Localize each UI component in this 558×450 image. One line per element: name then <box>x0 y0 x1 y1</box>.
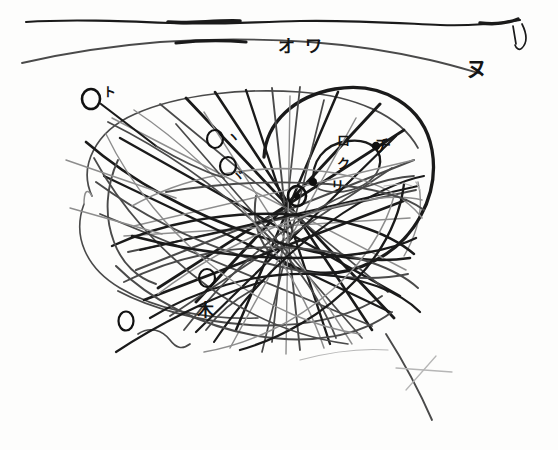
label-ro-glyph: ロ <box>337 133 350 148</box>
label-to-glyph: ト <box>103 84 116 99</box>
vertex-inner <box>309 178 317 186</box>
label-wa-glyph: ワ <box>305 36 322 56</box>
sketch-page: オ ワ ヌ ト ヽ ヾ ロ ク リ チ 木 <box>0 0 558 450</box>
particle-track-sketch: オ ワ ヌ ト ヽ ヾ ロ ク リ チ 木 <box>0 0 558 450</box>
asterisk-ki-glyph: 木 <box>196 300 215 320</box>
label-ku-glyph: ク <box>337 156 350 171</box>
vertex-main <box>294 193 300 199</box>
label-ii-glyph: ヽ <box>227 129 240 144</box>
label-chi-glyph: チ <box>374 136 391 156</box>
label-nu-glyph: ヌ <box>466 57 487 81</box>
label-o-glyph: オ <box>278 36 295 56</box>
label-ri-glyph: リ <box>331 178 344 193</box>
label-ji-glyph: ヾ <box>232 168 245 183</box>
